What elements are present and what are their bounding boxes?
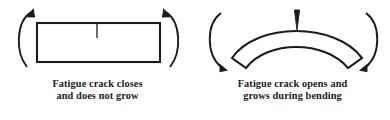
specimen-rectangle — [37, 23, 160, 62]
caption-crack-closed: Fatigue crack closes and does not grow — [0, 78, 195, 101]
figure-root: Fatigue crack closes and does not grow F… — [0, 0, 390, 120]
caption-line-1: Fatigue crack closes — [0, 78, 195, 90]
moment-arrowhead-left-up-icon — [26, 8, 35, 18]
diagram-crack-closed — [0, 0, 195, 78]
caption-crack-open: Fatigue crack opens and grows during ben… — [195, 78, 390, 101]
caption-line-2: grows during bending — [195, 90, 390, 102]
moment-arc-right — [166, 12, 178, 67]
moment-arrowhead-right-down-icon — [359, 64, 368, 73]
moment-arc-left — [210, 13, 221, 67]
caption-line-2: and does not grow — [0, 90, 195, 102]
panel-crack-closed: Fatigue crack closes and does not grow — [0, 0, 195, 120]
moment-arrowhead-left-down-icon — [219, 64, 228, 73]
specimen-curved-beam — [232, 31, 362, 68]
caption-line-1: Fatigue crack opens and — [195, 78, 390, 90]
moment-arc-left — [19, 12, 31, 67]
moment-arrowhead-right-up-icon — [162, 8, 171, 18]
diagram-crack-open — [195, 0, 390, 78]
crack-wedge-open — [294, 10, 299, 30]
moment-arc-right — [366, 13, 377, 67]
panel-crack-open: Fatigue crack opens and grows during ben… — [195, 0, 390, 120]
